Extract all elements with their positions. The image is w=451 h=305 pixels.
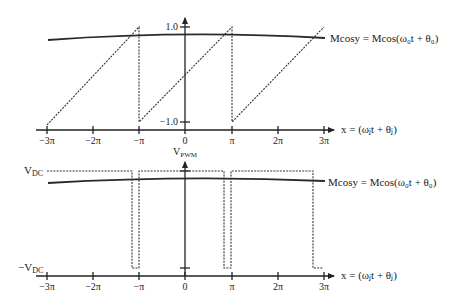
bottom-modulating-label: Mcosy = Mcos(ω₀t + θ₀) xyxy=(328,176,437,189)
bottom-x-axis-label: x = (ωⱼt + θⱼ) xyxy=(341,269,397,282)
top-y-tick-label-pos: 1.0 xyxy=(166,21,179,32)
bottom-y-tick-label-pos: VDC xyxy=(24,164,43,178)
svg-text:−π: −π xyxy=(134,281,145,292)
svg-text:3π: 3π xyxy=(319,281,329,292)
svg-text:2π: 2π xyxy=(273,135,283,146)
bottom-modulating-signal xyxy=(48,178,325,183)
svg-text:−2π: −2π xyxy=(85,135,101,146)
svg-text:π: π xyxy=(229,281,234,292)
top-modulating-label: Mcosy = Mcos(ω₀t + θ₀) xyxy=(330,32,439,45)
top-modulating-signal xyxy=(48,34,325,40)
svg-text:−2π: −2π xyxy=(85,281,101,292)
svg-text:0: 0 xyxy=(183,281,188,292)
top-x-tick-labels: −3π −2π −π 0 π 2π 3π xyxy=(39,135,329,146)
bottom-y-tick-label-neg: −VDC xyxy=(18,261,43,275)
svg-text:3π: 3π xyxy=(319,135,329,146)
bottom-x-tick-labels: −3π −2π −π 0 π 2π 3π xyxy=(39,281,329,292)
svg-text:−3π: −3π xyxy=(39,281,55,292)
bottom-plot: VPWM VDC −VDC −3π −2π −π 0 π 2π 3π xyxy=(18,146,437,292)
svg-text:π: π xyxy=(229,135,234,146)
top-plot: 1.0 −1.0 −3π −2π −π 0 π 2π 3π Mcosy = Mc… xyxy=(36,18,439,146)
svg-text:2π: 2π xyxy=(273,281,283,292)
svg-text:−3π: −3π xyxy=(39,135,55,146)
top-y-tick-label-neg: −1.0 xyxy=(160,116,178,127)
pwm-diagram: 1.0 −1.0 −3π −2π −π 0 π 2π 3π Mcosy = Mc… xyxy=(0,0,451,305)
svg-text:0: 0 xyxy=(183,135,188,146)
svg-text:−π: −π xyxy=(134,135,145,146)
top-x-axis-label: x = (ωⱼt + θⱼ) xyxy=(341,123,397,136)
bottom-y-axis-label: VPWM xyxy=(173,146,198,159)
